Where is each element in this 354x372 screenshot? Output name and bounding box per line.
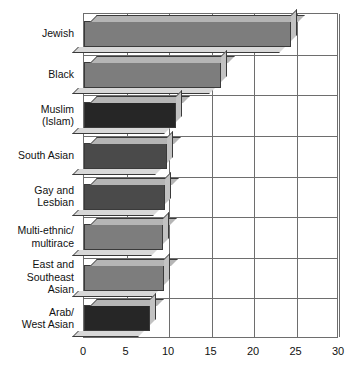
category-label: Gay and Lesbian xyxy=(0,183,74,208)
bar-row xyxy=(84,258,339,299)
category-label: Muslim (Islam) xyxy=(0,102,74,127)
bar-front-face xyxy=(84,224,163,250)
bar-right-face xyxy=(221,50,227,82)
bar-row xyxy=(84,55,339,96)
bar-top-face xyxy=(90,96,190,103)
bar-right-face xyxy=(150,293,156,325)
bar-right-face xyxy=(164,253,170,285)
bar-bottom-face xyxy=(72,47,285,53)
bar-front-face xyxy=(84,21,291,47)
bar-right-face xyxy=(291,9,297,41)
bar[interactable] xyxy=(84,265,164,291)
x-tick-label: 0 xyxy=(68,345,98,357)
bar-row xyxy=(84,177,339,218)
bar-front-face xyxy=(84,305,150,331)
bar-top-face xyxy=(90,56,235,63)
bar[interactable] xyxy=(84,102,176,128)
category-label: Jewish xyxy=(0,27,74,40)
bar-front-face xyxy=(84,184,165,210)
bar-top-face xyxy=(90,15,305,22)
x-tick-label: 15 xyxy=(196,345,226,357)
category-label: Multi-ethnic/ multirace xyxy=(0,224,74,249)
bar-right-face xyxy=(165,172,171,204)
bar-right-face xyxy=(167,131,173,163)
bar-bottom-face xyxy=(72,210,159,216)
x-tick-label: 20 xyxy=(238,345,268,357)
category-label: East and Southeast Asian xyxy=(0,258,74,296)
bar-row xyxy=(84,298,339,339)
bar-bottom-face xyxy=(72,169,161,175)
bar[interactable] xyxy=(84,143,167,169)
bar-front-face xyxy=(84,102,176,128)
bar-row xyxy=(84,217,339,258)
bar-bottom-face xyxy=(72,250,157,256)
bar-row xyxy=(84,95,339,136)
bar[interactable] xyxy=(84,305,150,331)
bar[interactable] xyxy=(84,21,291,47)
category-label: Black xyxy=(0,68,74,81)
x-tick-label: 5 xyxy=(111,345,141,357)
x-tick-label: 30 xyxy=(323,345,353,357)
bar-front-face xyxy=(84,62,221,88)
bar-front-face xyxy=(84,265,164,291)
bar-bottom-face xyxy=(72,331,144,337)
category-label: Arab/ West Asian xyxy=(0,305,74,330)
bar-row xyxy=(84,136,339,177)
bar-bottom-face xyxy=(72,291,158,297)
bar[interactable] xyxy=(84,62,221,88)
plot-area xyxy=(83,13,338,338)
bar-bottom-face xyxy=(72,128,170,134)
x-tick-label: 10 xyxy=(153,345,183,357)
bar-front-face xyxy=(84,143,167,169)
bar-right-face xyxy=(176,90,182,122)
bar-bottom-face xyxy=(72,88,215,94)
category-label: South Asian xyxy=(0,149,74,162)
bar-chart: JewishBlackMuslim (Islam)South AsianGay … xyxy=(0,0,354,372)
bar-row xyxy=(84,14,339,55)
bar[interactable] xyxy=(84,224,163,250)
gridline-vertical xyxy=(339,14,340,337)
bar-right-face xyxy=(163,212,169,244)
x-tick-label: 25 xyxy=(281,345,311,357)
bar[interactable] xyxy=(84,184,165,210)
